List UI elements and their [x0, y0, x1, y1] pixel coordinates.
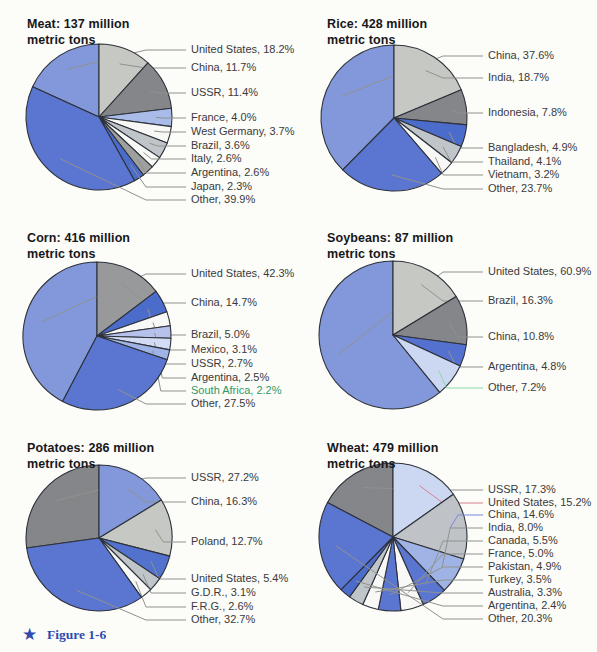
chart-title-meat: Meat: 137 million metric tons	[27, 16, 129, 49]
chart-title-wheat: Wheat: 479 million metric tons	[327, 440, 439, 473]
title-line-1: Meat: 137 million	[27, 16, 129, 32]
slice-label-soybeans-0: United States, 60.9%	[488, 266, 591, 277]
slice-label-rice-1: India, 18.7%	[488, 72, 549, 83]
figure-page: Meat: 137 million metric tons Rice: 428 …	[0, 0, 597, 652]
title-line-2: metric tons	[327, 456, 439, 472]
slice-label-wheat-0: USSR, 17.3%	[488, 484, 556, 495]
slice-label-potatoes-1: China, 16.3%	[191, 496, 257, 507]
slice-label-wheat-4: Canada, 5.5%	[488, 535, 558, 546]
figure-caption-label: Figure 1-6	[47, 627, 106, 643]
chart-title-potatoes: Potatoes: 286 million metric tons	[27, 440, 154, 473]
slice-label-corn-3: Mexico, 3.1%	[191, 344, 257, 355]
slice-label-meat-6: Italy, 2.6%	[191, 153, 242, 164]
slice-label-wheat-7: Turkey, 3.5%	[488, 574, 552, 585]
title-line-1: Potatoes: 286 million	[27, 440, 154, 456]
slice-label-corn-1: China, 14.7%	[191, 297, 257, 308]
slice-label-corn-6: South Africa, 2.2%	[191, 385, 282, 396]
pie-wheat	[319, 463, 483, 619]
slice-label-corn-5: Argentina, 2.5%	[191, 372, 269, 383]
slice-label-meat-4: West Germany, 3.7%	[191, 126, 295, 137]
pie-potatoes	[26, 465, 186, 620]
title-line-2: metric tons	[27, 246, 130, 262]
slice-label-wheat-2: China, 14.6%	[488, 509, 554, 520]
slice-label-meat-8: Japan, 2.3%	[191, 181, 252, 192]
pie-corn	[23, 262, 186, 410]
pie-slice-potatoes-0	[26, 465, 99, 548]
slice-label-potatoes-4: G.D.R., 3.1%	[191, 587, 256, 598]
slice-label-soybeans-1: Brazil, 16.3%	[488, 295, 553, 306]
figure-caption: ★ Figure 1-6	[22, 626, 106, 643]
title-line-2: metric tons	[27, 456, 154, 472]
slice-label-potatoes-3: United States, 5.4%	[191, 573, 288, 584]
slice-label-wheat-5: France, 5.0%	[488, 548, 553, 559]
slice-label-potatoes-2: Poland, 12.7%	[191, 536, 263, 547]
slice-label-wheat-10: Other, 20.3%	[488, 613, 552, 624]
chart-title-soybeans: Soybeans: 87 million metric tons	[327, 230, 453, 263]
slice-label-soybeans-2: China, 10.8%	[488, 331, 554, 342]
slice-label-rice-6: Other, 23.7%	[488, 183, 552, 194]
slice-label-wheat-3: India, 8.0%	[488, 522, 543, 533]
title-line-2: metric tons	[327, 32, 427, 48]
title-line-1: Corn: 416 million	[27, 230, 130, 246]
slice-label-wheat-8: Australia, 3.3%	[488, 587, 562, 598]
pie-meat	[26, 44, 186, 200]
star-icon: ★	[22, 626, 37, 643]
slice-label-corn-4: USSR, 2.7%	[191, 358, 253, 369]
title-line-1: Soybeans: 87 million	[327, 230, 453, 246]
slice-label-potatoes-6: Other, 32.7%	[191, 614, 255, 625]
slice-label-meat-3: France, 4.0%	[191, 112, 256, 123]
slice-label-wheat-6: Pakistan, 4.9%	[488, 561, 561, 572]
slice-label-meat-9: Other, 39.9%	[191, 194, 255, 205]
slice-label-soybeans-3: Argentina, 4.8%	[488, 361, 566, 372]
slice-label-wheat-1: United States, 15.2%	[488, 497, 591, 508]
slice-label-meat-2: USSR, 11.4%	[191, 87, 258, 98]
title-line-1: Wheat: 479 million	[327, 440, 439, 456]
slice-label-rice-2: Indonesia, 7.8%	[488, 107, 567, 118]
pie-soybeans	[319, 261, 483, 409]
slice-label-rice-0: China, 37.6%	[488, 50, 554, 61]
slice-label-meat-5: Brazil, 3.6%	[191, 140, 250, 151]
slice-label-corn-0: United States, 42.3%	[191, 268, 294, 279]
slice-label-soybeans-4: Other, 7.2%	[488, 382, 546, 393]
chart-title-rice: Rice: 428 million metric tons	[327, 16, 427, 49]
title-line-2: metric tons	[327, 246, 453, 262]
chart-title-corn: Corn: 416 million metric tons	[27, 230, 130, 263]
slice-label-rice-4: Thailand, 4.1%	[488, 156, 561, 167]
slice-label-meat-7: Argentina, 2.6%	[191, 167, 269, 178]
slice-label-potatoes-5: F.R.G., 2.6%	[191, 601, 253, 612]
slice-label-corn-7: Other, 27.5%	[191, 398, 255, 409]
slice-label-corn-2: Brazil, 5.0%	[191, 329, 250, 340]
slice-label-wheat-9: Argentina, 2.4%	[488, 600, 566, 611]
slice-label-meat-1: China, 11.7%	[191, 62, 256, 73]
pie-rice	[321, 45, 483, 191]
slice-label-rice-5: Vietnam, 3.2%	[488, 169, 559, 180]
slice-label-potatoes-0: USSR, 27.2%	[191, 472, 259, 483]
slice-label-rice-3: Bangladesh, 4.9%	[488, 142, 577, 153]
title-line-1: Rice: 428 million	[327, 16, 427, 32]
title-line-2: metric tons	[27, 32, 129, 48]
slice-label-meat-0: United States, 18.2%	[191, 44, 294, 55]
